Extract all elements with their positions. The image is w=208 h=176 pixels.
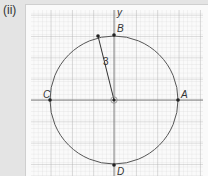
point-a-label: A	[180, 89, 188, 100]
circle-diagram: y 3 A B C D	[0, 0, 208, 176]
point-d-label: D	[117, 166, 124, 176]
radius-endpoint	[96, 34, 100, 38]
point-a	[176, 98, 180, 102]
point-c-label: C	[43, 89, 51, 100]
point-d	[112, 163, 116, 167]
y-axis-label: y	[116, 7, 123, 18]
point-b-label: B	[117, 23, 124, 34]
radius-label: 3	[103, 56, 109, 67]
center-point	[112, 98, 115, 101]
point-b	[112, 33, 116, 37]
